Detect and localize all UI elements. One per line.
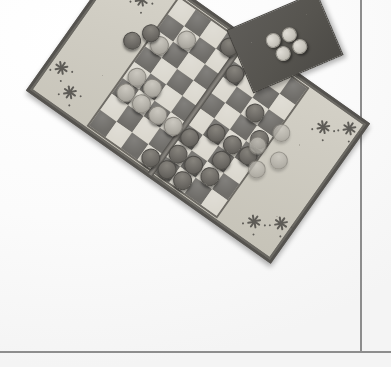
table-edge-horizontal <box>0 351 391 353</box>
speckle-dot <box>290 226 293 229</box>
photo-scene <box>0 0 391 367</box>
table-edge-vertical <box>360 0 362 352</box>
speckle-dot <box>359 131 362 134</box>
